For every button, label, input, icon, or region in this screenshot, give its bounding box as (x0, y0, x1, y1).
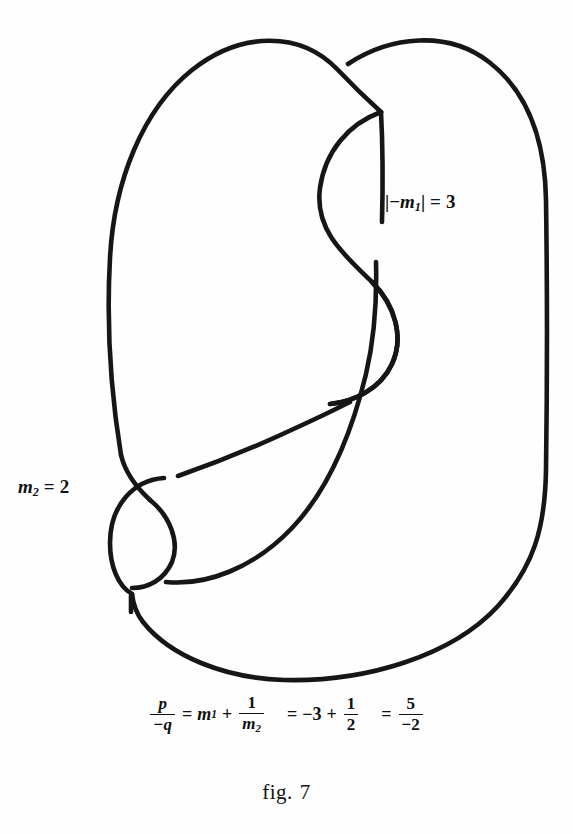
denominator-m2-subscript: 2 (256, 722, 261, 734)
formula-equals-3: = (381, 704, 391, 725)
formula-plus-1: + (222, 704, 232, 725)
denominator-m2: m2 (239, 713, 264, 734)
strand-spiral-inner (132, 500, 175, 588)
strand-lower-vertical (166, 262, 376, 583)
denominator-m2-symbol: m (242, 714, 255, 733)
figure-page: |−m1|=3 m2=2 p −q = m1 + 1 m2 = −3 + (0, 0, 573, 834)
fraction-1-over-2: 1 2 (344, 695, 359, 734)
denominator-minus-two: −2 (399, 714, 423, 734)
fraction-p-over-minus-q: p −q (150, 695, 175, 734)
m1-symbol: m (400, 191, 415, 212)
numerator-five: 5 (403, 695, 418, 714)
strand-left-descend (121, 455, 150, 500)
numerator-half-one: 1 (344, 695, 359, 714)
formula-lhs-fraction: p −q (148, 695, 177, 734)
strand-spiral-outer (110, 478, 164, 594)
formula-fraction-one-over-m2: 1 m2 (237, 694, 266, 734)
formula-result-fraction: 5 −2 (397, 695, 425, 734)
formula-term-m1: m1 (197, 704, 217, 725)
denominator-half-two: 2 (344, 714, 359, 734)
denominator-minus-q: −q (150, 714, 175, 734)
numerator-one: 1 (244, 694, 259, 713)
caption-number: 7 (300, 780, 311, 804)
minus-sign: − (389, 191, 400, 212)
continued-fraction-formula: p −q = m1 + 1 m2 = −3 + 1 2 = (0, 694, 573, 734)
annotation-m1: |−m1|=3 (385, 192, 455, 214)
strand-upper-vertical (381, 112, 383, 222)
caption-prefix: fig. (262, 780, 293, 804)
strand-diagonal (178, 402, 350, 476)
formula-m1-symbol: m (197, 704, 211, 725)
formula-equals-1: = (182, 704, 192, 725)
m1-value: 3 (446, 191, 456, 212)
m2-equals: = (44, 476, 55, 497)
m2-symbol: m (18, 476, 33, 497)
formula-plus-2: + (327, 704, 337, 725)
numerator-p: p (155, 695, 170, 714)
fraction-5-over-minus-2: 5 −2 (399, 695, 423, 734)
m1-equals: = (430, 191, 441, 212)
annotation-m2: m2=2 (18, 477, 69, 499)
strand-outer-right (132, 40, 547, 680)
fraction-1-over-m2: 1 m2 (239, 694, 264, 734)
figure-caption: fig.7 (0, 780, 573, 805)
formula-equals-2: = (287, 704, 297, 725)
formula-value-m1: −3 (302, 704, 321, 725)
strand-s-curve (319, 112, 397, 404)
formula-m1-subscript: 1 (211, 708, 217, 720)
m2-value: 2 (60, 476, 70, 497)
m2-subscript: 2 (33, 485, 39, 499)
abs-bar-close: | (421, 191, 425, 212)
formula-fraction-half: 1 2 (342, 695, 361, 734)
